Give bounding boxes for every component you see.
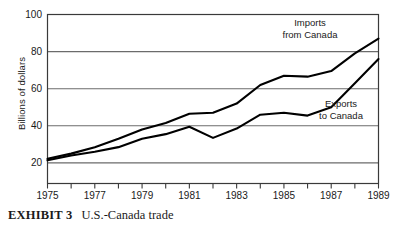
x-axis-ticks xyxy=(48,184,379,189)
series-label-imports-line1: Imports xyxy=(262,17,358,29)
x-tick-label: 1989 xyxy=(362,191,395,201)
x-tick-label: 1979 xyxy=(125,191,159,201)
caption-label: EXHIBIT 3 xyxy=(8,208,72,222)
x-tick-label: 1977 xyxy=(78,191,112,201)
series-label-exports-line1: Exports xyxy=(305,98,377,110)
series-label-imports-line2: from Canada xyxy=(262,29,358,41)
x-tick-label: 1983 xyxy=(220,191,254,201)
series-label-exports-line2: to Canada xyxy=(305,110,377,122)
figure-caption: EXHIBIT 3U.S.-Canada trade xyxy=(8,208,173,223)
x-tick-label: 1985 xyxy=(267,191,301,201)
series-label-exports: Exports to Canada xyxy=(305,98,377,121)
x-tick-label: 1987 xyxy=(314,191,348,201)
x-tick-label: 1981 xyxy=(172,191,206,201)
chart-figure: Billions of dollars 10080604020 19751977… xyxy=(0,0,395,228)
series-label-imports: Imports from Canada xyxy=(262,17,358,40)
caption-text: U.S.-Canada trade xyxy=(81,208,173,222)
x-tick-label: 1975 xyxy=(31,191,65,201)
